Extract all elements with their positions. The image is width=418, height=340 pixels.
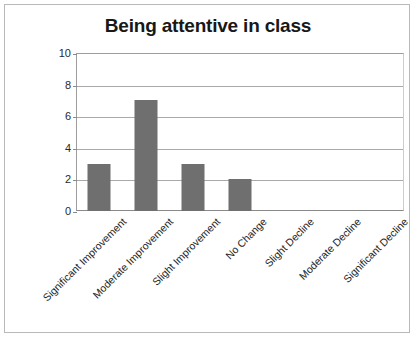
y-axis-tick-label: 0: [65, 206, 71, 217]
bar-series: [76, 53, 404, 211]
bar: [135, 100, 158, 211]
y-axis-tick-label: 10: [59, 48, 71, 59]
x-axis-tick-labels: Significant ImprovementModerate Improvem…: [76, 213, 404, 323]
y-axis-tick-label: 8: [65, 79, 71, 90]
bar: [228, 179, 251, 211]
bar-slot: [263, 53, 310, 211]
bar-slot: [310, 53, 357, 211]
y-axis-tick-label: 6: [65, 111, 71, 122]
y-axis-tick-label: 2: [65, 174, 71, 185]
bar-slot: [123, 53, 170, 211]
bar-slot: [217, 53, 264, 211]
x-axis-tick-label: No Change: [224, 216, 269, 261]
chart-title: Being attentive in class: [5, 15, 411, 37]
y-axis-tick-labels: 0246810: [49, 53, 71, 211]
bar: [88, 164, 111, 211]
x-axis-tick-label: Significant Improvement: [41, 216, 128, 303]
bar-slot: [170, 53, 217, 211]
chart-frame: Being attentive in class 0246810 Signifi…: [4, 4, 410, 333]
bar-slot: [357, 53, 404, 211]
bar-slot: [76, 53, 123, 211]
y-axis-tick-label: 4: [65, 142, 71, 153]
x-axis-tick-label: Moderate Improvement: [91, 216, 175, 300]
bar: [182, 164, 205, 211]
